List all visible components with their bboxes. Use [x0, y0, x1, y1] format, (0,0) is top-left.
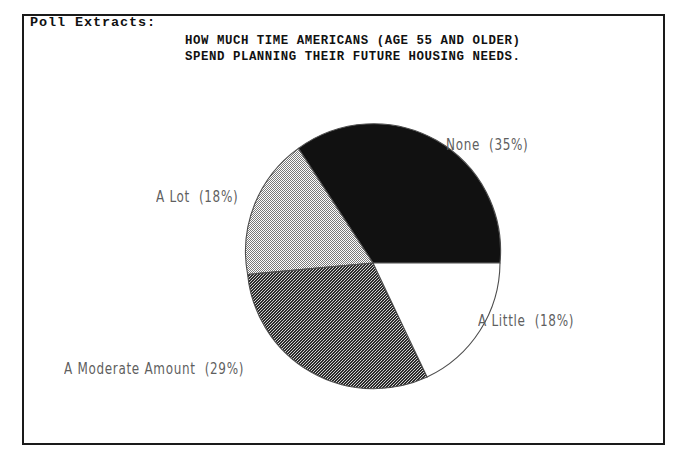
chart-frame-border [22, 14, 665, 445]
pie-label-a-moderate-amount: A Moderate Amount (29%) [64, 360, 244, 378]
pie-label-none: None (35%) [446, 136, 528, 154]
pie-label-a-lot: A Lot (18%) [156, 188, 238, 206]
pie-label-a-little: A Little (18%) [478, 312, 574, 330]
screenshot-page: Poll Extracts: HOW MUCH TIME AMERICANS (… [0, 0, 676, 466]
page-title: Poll Extracts: [30, 15, 156, 30]
chart-title: HOW MUCH TIME AMERICANS (AGE 55 AND OLDE… [185, 33, 520, 65]
